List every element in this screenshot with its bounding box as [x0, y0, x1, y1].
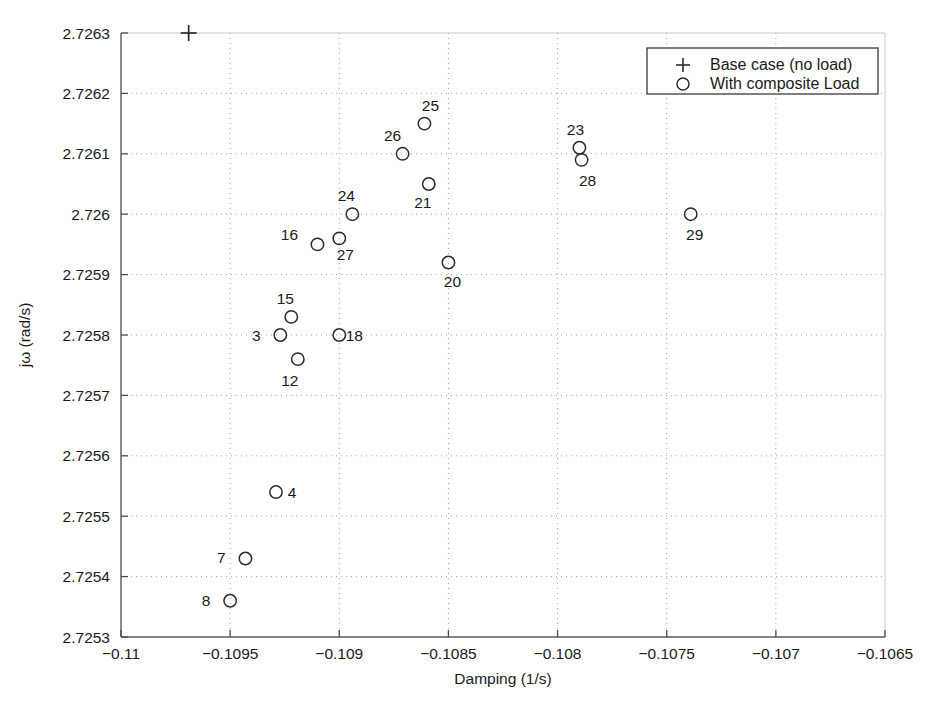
data-point-label: 12: [281, 372, 298, 389]
x-axis-label: Damping (1/s): [454, 670, 551, 687]
data-point-label: 7: [217, 549, 226, 566]
x-tick-label: −0.107: [752, 645, 800, 662]
legend[interactable]: Base case (no load) With composite Load: [647, 48, 878, 94]
data-point-label: 25: [422, 97, 439, 114]
x-tick-label: −0.1075: [638, 645, 694, 662]
y-tick-label: 2.7255: [63, 508, 110, 525]
data-point-label: 16: [281, 226, 298, 243]
y-tick-label: 2.7261: [63, 145, 110, 162]
y-tick-label: 2.7263: [63, 25, 110, 42]
legend-label-base-case: Base case (no load): [710, 56, 852, 73]
data-point-label: 23: [567, 121, 584, 138]
figure-background: [0, 0, 942, 725]
data-point-label: 8: [202, 592, 211, 609]
data-point-label: 24: [338, 187, 356, 204]
y-tick-label: 2.7256: [63, 447, 110, 464]
data-point-label: 4: [288, 484, 297, 501]
data-point-label: 3: [252, 327, 261, 344]
y-tick-label: 2.7258: [63, 327, 110, 344]
scatter-plot-figure: −0.11−0.1095−0.109−0.1085−0.108−0.1075−0…: [0, 0, 942, 725]
x-tick-label: −0.11: [102, 645, 140, 662]
y-tick-label: 2.7257: [63, 387, 110, 404]
plot-canvas: −0.11−0.1095−0.109−0.1085−0.108−0.1075−0…: [0, 0, 942, 725]
x-tick-label: −0.1085: [420, 645, 476, 662]
y-tick-label: 2.7254: [63, 568, 111, 585]
y-tick-label: 2.7259: [63, 266, 110, 283]
data-point-label: 21: [414, 194, 431, 211]
y-axis-label: jω (rad/s): [16, 303, 33, 369]
data-point-label: 28: [579, 172, 596, 189]
data-point-label: 15: [277, 290, 294, 307]
x-tick-label: −0.1095: [202, 645, 258, 662]
data-point-label: 26: [384, 127, 401, 144]
legend-label-composite-load: With composite Load: [710, 75, 859, 92]
y-tick-label: 2.7262: [63, 85, 110, 102]
data-point-label: 20: [444, 273, 462, 290]
data-point-label: 27: [337, 246, 354, 263]
x-tick-label: −0.108: [534, 645, 582, 662]
x-tick-label: −0.109: [315, 645, 363, 662]
data-point-label: 29: [686, 226, 703, 243]
data-point-label: 18: [346, 327, 363, 344]
y-tick-label: 2.7253: [63, 629, 110, 646]
x-tick-label: −0.1065: [857, 645, 913, 662]
y-tick-label: 2.726: [71, 206, 110, 223]
